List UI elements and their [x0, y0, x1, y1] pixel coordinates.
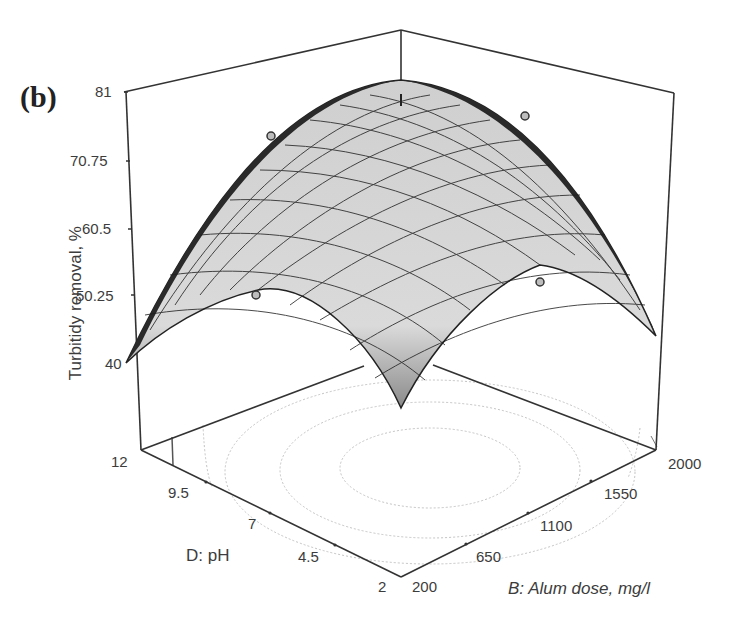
design-point	[536, 278, 544, 286]
z-tick-50-25: 50.25	[76, 287, 114, 304]
y-tick-9-5: 9.5	[168, 484, 189, 501]
floor-contours	[203, 380, 640, 564]
y-tick-12: 12	[111, 453, 128, 470]
design-point	[267, 132, 275, 140]
design-point	[521, 112, 529, 120]
z-tick-60-5: 60.5	[82, 220, 111, 237]
response-surface	[126, 80, 656, 408]
z-tick-70-75: 70.75	[70, 152, 108, 169]
y-tick-2: 2	[378, 578, 386, 595]
panel-label: (b)	[20, 80, 57, 114]
x-tick-200: 200	[412, 578, 437, 595]
design-point	[252, 291, 260, 299]
floor-contour-dark	[172, 437, 173, 465]
z-tick-81: 81	[95, 83, 112, 100]
y-tick-7: 7	[248, 515, 256, 532]
y-tick-4-5: 4.5	[298, 548, 319, 565]
x-tick-2000: 2000	[668, 455, 701, 472]
z-tick-40: 40	[105, 355, 122, 372]
x-axis-label: B: Alum dose, mg/l	[508, 579, 650, 599]
x-tick-1100: 1100	[540, 517, 572, 534]
x-tick-650: 650	[476, 548, 501, 565]
y-axis-label: D: pH	[186, 546, 229, 566]
x-tick-1550: 1550	[604, 485, 637, 502]
